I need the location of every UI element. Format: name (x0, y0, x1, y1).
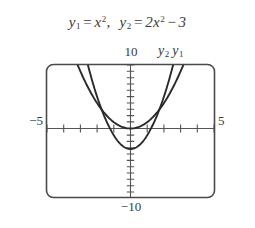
graph-figure: y1=x2,y2=2x2−3 10 −10 −5 5 y2y1 (0, 0, 255, 228)
calculator-plot (0, 0, 255, 228)
